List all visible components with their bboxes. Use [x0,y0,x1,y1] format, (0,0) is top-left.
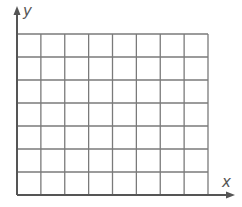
y-axis-arrow-icon [14,6,21,15]
x-axis-label: x [222,175,231,190]
coordinate-grid-diagram: y x [0,0,242,207]
y-axis-label: y [23,4,32,19]
grid-lines [17,34,208,195]
grid-canvas [0,0,242,207]
x-axis-arrow-icon [226,192,235,199]
